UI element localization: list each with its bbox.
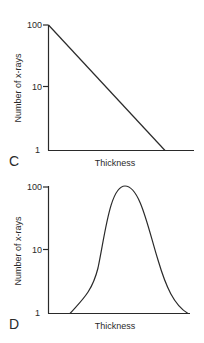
y-axis-title: Number of x-rays — [13, 216, 23, 286]
chart-panel-d: 100 10 1 Number of x-rays Thickness D — [9, 182, 190, 332]
y-tick-label-100: 100 — [27, 182, 42, 192]
y-tick-label-10: 10 — [32, 245, 42, 255]
y-tick-label-10: 10 — [32, 82, 42, 92]
y-tick-label-1: 1 — [35, 308, 40, 318]
x-axis-title: Thickness — [95, 321, 136, 331]
panel-label-d: D — [9, 316, 19, 332]
bell-curve — [70, 186, 188, 314]
chart-panel-c: 100 10 1 Number of x-rays Thickness C — [9, 20, 194, 169]
attenuation-line — [49, 25, 166, 151]
x-axis-title: Thickness — [95, 158, 136, 168]
panel-label-c: C — [9, 153, 19, 169]
figure: 100 10 1 Number of x-rays Thickness C 10… — [0, 0, 204, 343]
y-tick-label-100: 100 — [27, 20, 42, 30]
y-axis-title: Number of x-rays — [13, 53, 23, 123]
y-tick-label-1: 1 — [35, 145, 40, 155]
